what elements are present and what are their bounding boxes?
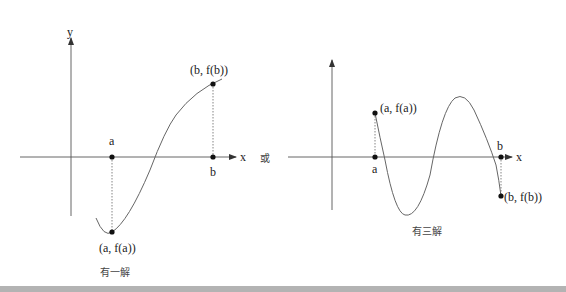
right-a-label: a bbox=[372, 162, 378, 176]
right-fb-label: (b, f(b)) bbox=[504, 190, 542, 204]
left-function-curve bbox=[96, 79, 222, 233]
left-a-label: a bbox=[109, 134, 115, 148]
diagram-canvas: y x a b (a, f(a)) (b, f(b)) 有一解 或 x a b … bbox=[0, 0, 566, 292]
right-point-fb bbox=[498, 193, 503, 198]
left-point-fa bbox=[109, 229, 114, 234]
left-fb-label: (b, f(b)) bbox=[190, 63, 228, 77]
or-separator: 或 bbox=[260, 153, 270, 164]
left-caption: 有一解 bbox=[100, 266, 130, 278]
left-y-axis-label: y bbox=[67, 25, 73, 39]
right-point-fa bbox=[372, 110, 377, 115]
left-point-a bbox=[109, 154, 114, 159]
right-caption: 有三解 bbox=[412, 225, 442, 237]
left-x-axis-label: x bbox=[240, 150, 246, 164]
right-point-b bbox=[498, 154, 503, 159]
left-fa-label: (a, f(a)) bbox=[99, 241, 136, 255]
right-graph: x a b (a, f(a)) (b, f(b)) 有三解 bbox=[288, 60, 542, 237]
left-point-b bbox=[210, 154, 215, 159]
left-point-fb bbox=[210, 81, 215, 86]
right-fa-label: (a, f(a)) bbox=[380, 101, 417, 115]
right-b-label: b bbox=[497, 139, 503, 153]
right-x-axis-label: x bbox=[516, 150, 522, 164]
left-graph: y x a b (a, f(a)) (b, f(b)) 有一解 bbox=[20, 25, 246, 278]
left-b-label: b bbox=[210, 165, 216, 179]
right-point-a bbox=[372, 154, 377, 159]
bottom-divider-bar bbox=[0, 286, 566, 292]
